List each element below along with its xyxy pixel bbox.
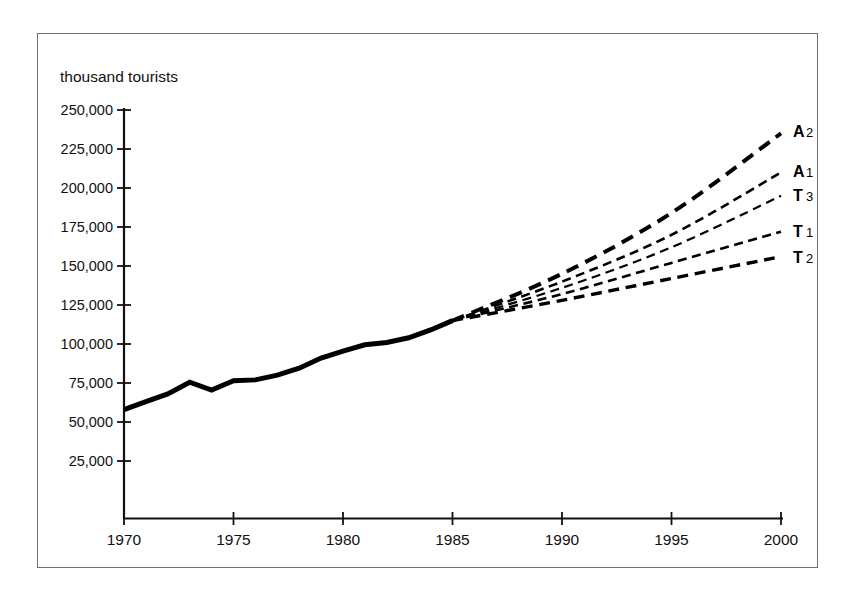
- series-label-t3: T3: [793, 187, 813, 204]
- series-line-historical: [124, 321, 453, 410]
- y-tick-label: 150,000: [61, 258, 113, 274]
- y-tick-label: 200,000: [61, 180, 113, 196]
- series-line-a2: [453, 133, 782, 320]
- data-series-lines: [124, 133, 781, 409]
- series-label-digit: 2: [806, 125, 813, 140]
- series-label-a1: A1: [793, 163, 813, 180]
- x-tick-labels: 1970197519801985199019952000: [107, 531, 799, 548]
- y-tick-label: 25,000: [69, 453, 113, 469]
- series-label-letter: T: [793, 187, 803, 204]
- y-tick-label: 75,000: [69, 375, 113, 391]
- series-label-letter: A: [793, 123, 805, 140]
- series-label-letter: T: [793, 249, 803, 266]
- x-tick-label: 1995: [654, 531, 688, 548]
- y-tick-label: 225,000: [61, 141, 113, 157]
- tourism-forecast-chart: thousand tourists 25,00050,00075,000100,…: [0, 0, 853, 593]
- y-tick-label: 50,000: [69, 414, 113, 430]
- series-label-digit: 1: [806, 165, 813, 180]
- series-end-labels: A2A1T3T1T2: [793, 123, 813, 266]
- series-label-a2: A2: [793, 123, 813, 140]
- y-tick-label: 250,000: [61, 102, 113, 118]
- x-tick-label: 1975: [216, 531, 250, 548]
- series-label-letter: T: [793, 223, 803, 240]
- x-tick-label: 1970: [107, 531, 142, 548]
- series-label-digit: 3: [806, 189, 813, 204]
- y-tick-label: 175,000: [61, 219, 113, 235]
- x-tick-label: 2000: [764, 531, 799, 548]
- x-tick-label: 1990: [545, 531, 580, 548]
- y-tick-label: 125,000: [61, 297, 113, 313]
- series-label-t1: T1: [793, 223, 813, 240]
- y-axis-title: thousand tourists: [60, 68, 178, 85]
- y-tick-label: 100,000: [61, 336, 113, 352]
- x-tick-label: 1985: [435, 531, 469, 548]
- y-tick-labels: 25,00050,00075,000100,000125,000150,0001…: [61, 102, 113, 469]
- series-label-t2: T2: [793, 249, 813, 266]
- y-axis-title-group: thousand tourists: [60, 68, 178, 85]
- series-label-digit: 2: [806, 251, 813, 266]
- x-tick-label: 1980: [326, 531, 361, 548]
- series-label-letter: A: [793, 163, 805, 180]
- series-line-t2: [453, 257, 782, 321]
- series-label-digit: 1: [806, 225, 813, 240]
